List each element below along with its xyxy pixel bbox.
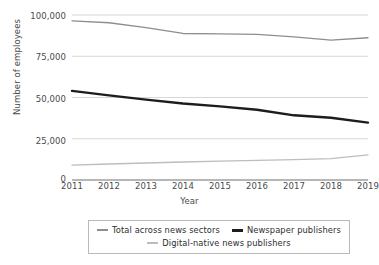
- series-lines: [72, 21, 368, 165]
- legend-row-1: Total across news sectors Newspaper publ…: [95, 225, 343, 235]
- line-swatch-newspaper-icon: [232, 229, 243, 232]
- x-axis-tick-label: 2011: [61, 181, 83, 191]
- x-axis-tick-label: 2016: [246, 181, 268, 191]
- line-swatch-digital-icon: [147, 242, 158, 244]
- series-line: [72, 155, 368, 165]
- chart-legend: Total across news sectors Newspaper publ…: [88, 220, 350, 254]
- x-axis-tick-label: 2019: [357, 181, 379, 191]
- legend-row-2: Digital-native news publishers: [95, 238, 343, 248]
- x-axis-tick-label: 2012: [98, 181, 120, 191]
- x-axis-tick-label: 2017: [283, 181, 305, 191]
- legend-label: Total across news sectors: [112, 225, 220, 235]
- x-axis-tick-label: 2015: [209, 181, 231, 191]
- legend-label: Digital-native news publishers: [162, 238, 290, 248]
- line-chart: Number of employees 100,000 75,000 50,00…: [0, 0, 379, 265]
- legend-label: Newspaper publishers: [247, 225, 341, 235]
- series-line: [72, 91, 368, 123]
- x-axis-title: Year: [0, 196, 379, 206]
- legend-item-newspaper[interactable]: Newspaper publishers: [232, 225, 341, 235]
- series-line: [72, 21, 368, 40]
- x-axis-tick-label: 2018: [320, 181, 342, 191]
- legend-item-total[interactable]: Total across news sectors: [97, 225, 220, 235]
- line-swatch-total-icon: [97, 229, 108, 231]
- x-axis-tick-label: 2014: [172, 181, 194, 191]
- legend-item-digital[interactable]: Digital-native news publishers: [147, 238, 290, 248]
- x-axis-tick-labels: 201120122013201420152016201720182019: [72, 181, 368, 195]
- x-axis-tick-label: 2013: [135, 181, 157, 191]
